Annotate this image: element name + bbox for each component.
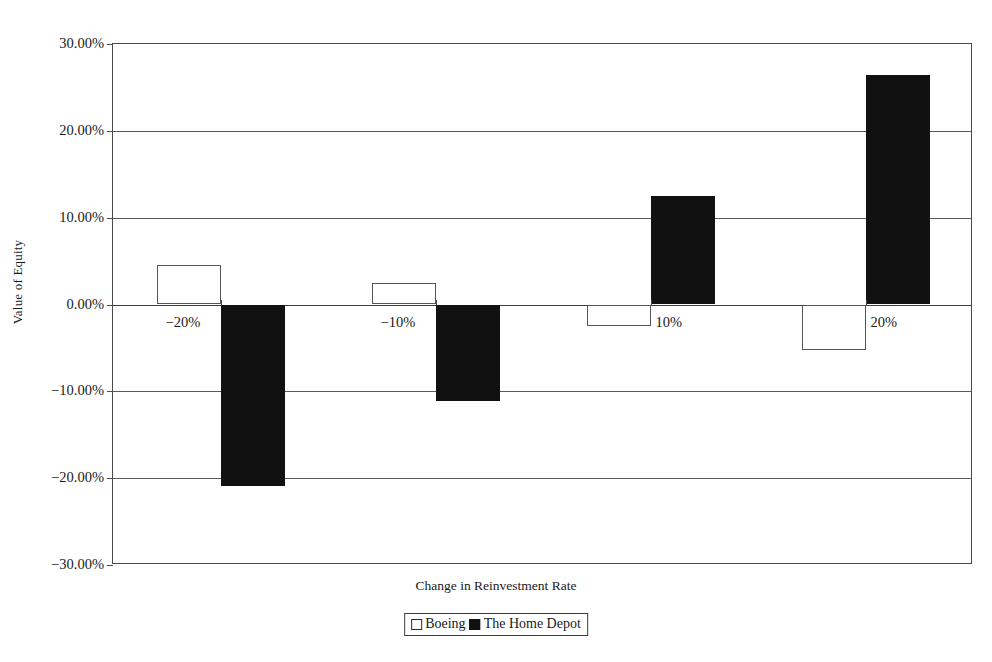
x-tick-mark (651, 300, 652, 305)
y-tick-mark (107, 44, 113, 45)
x-category-label: −20% (166, 315, 201, 330)
legend-swatch-boeing-icon (411, 619, 422, 630)
y-tick-mark (107, 478, 113, 479)
y-tick-label: −30.00% (12, 557, 104, 572)
legend-entry-boeing: Boeing (411, 616, 465, 632)
y-tick-label: 30.00% (12, 36, 104, 51)
y-tick-mark (107, 305, 113, 306)
y-tick-mark (107, 565, 113, 566)
y-tick-mark (107, 131, 113, 132)
x-category-label: 10% (656, 315, 683, 330)
legend-entry-home-depot: The Home Depot (470, 616, 581, 632)
x-category-label: 20% (871, 315, 898, 330)
x-tick-mark (221, 300, 222, 305)
x-tick-mark (866, 300, 867, 305)
x-tick-mark (436, 300, 437, 305)
legend-label-boeing: Boeing (425, 616, 465, 632)
y-tick-label: 20.00% (12, 123, 104, 138)
gridline-20 (113, 131, 971, 132)
y-axis-tick-labels: 30.00%20.00%10.00%0.00%−10.00%−20.00%−30… (0, 0, 104, 662)
y-tick-label: −20.00% (12, 470, 104, 485)
y-tick-mark (107, 218, 113, 219)
bar-boeing-10 (587, 305, 651, 327)
legend-swatch-home-depot-icon (470, 619, 481, 630)
bar-home-depot-10 (651, 196, 715, 305)
y-tick-label: 10.00% (12, 209, 104, 224)
bar-home-depot--10 (436, 305, 500, 401)
x-axis-title: Change in Reinvestment Rate (0, 578, 992, 594)
legend-label-home-depot: The Home Depot (484, 616, 581, 632)
bar-boeing--20 (157, 265, 221, 304)
y-tick-label: −10.00% (12, 383, 104, 398)
gridline-10 (113, 218, 971, 219)
y-tick-label: 0.00% (12, 296, 104, 311)
bar-chart: Value of Equity 30.00%20.00%10.00%0.00%−… (0, 0, 992, 662)
y-tick-mark (107, 391, 113, 392)
plot-area (112, 43, 972, 564)
bar-boeing--10 (372, 283, 436, 305)
bar-boeing-20 (802, 305, 866, 350)
bar-home-depot-20 (866, 75, 930, 304)
x-category-label: −10% (381, 315, 416, 330)
legend: Boeing The Home Depot (404, 613, 588, 636)
bar-home-depot--20 (221, 305, 285, 486)
